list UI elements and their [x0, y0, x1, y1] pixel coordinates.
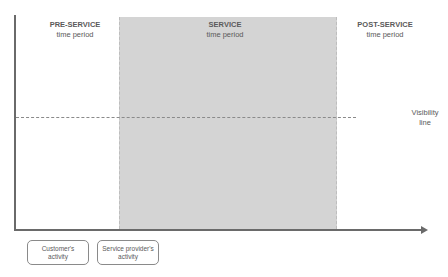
- legend-provider-line2: activity: [118, 253, 138, 261]
- service-title: SERVICE: [190, 20, 260, 30]
- legend-customer-line1: Customer's: [42, 245, 75, 253]
- visibility-label-line2: line: [405, 118, 445, 128]
- x-axis-arrow-icon: [421, 226, 428, 234]
- service-subtitle: time period: [190, 30, 260, 40]
- legend-provider-activity: Service provider's activity: [97, 240, 159, 265]
- service-label: SERVICE time period: [190, 20, 260, 40]
- x-axis-time: [14, 229, 424, 231]
- legend-customer-line2: activity: [48, 253, 68, 261]
- post-service-label: POST-SERVICE time period: [345, 20, 425, 40]
- visibility-label-line1: Visibility: [405, 108, 445, 118]
- service-period-region: [119, 17, 337, 229]
- visibility-line: [16, 117, 356, 118]
- pre-service-title: PRE-SERVICE: [40, 20, 110, 30]
- pre-service-label: PRE-SERVICE time period: [40, 20, 110, 40]
- legend-customer-activity: Customer's activity: [27, 240, 89, 265]
- y-axis: [14, 15, 16, 230]
- post-service-subtitle: time period: [345, 30, 425, 40]
- visibility-line-label: Visibility line: [405, 108, 445, 128]
- post-service-title: POST-SERVICE: [345, 20, 425, 30]
- legend-provider-line1: Service provider's: [102, 245, 153, 253]
- pre-service-subtitle: time period: [40, 30, 110, 40]
